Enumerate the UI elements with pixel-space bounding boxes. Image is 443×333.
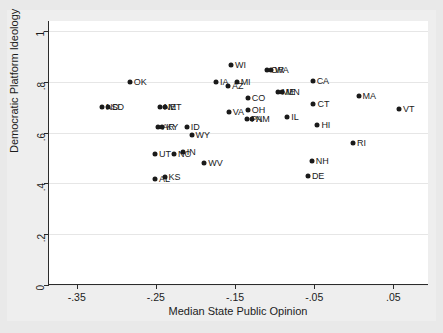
- scatter-point: [315, 123, 320, 128]
- point-label: KS: [169, 172, 181, 182]
- point-label: CT: [317, 99, 329, 109]
- point-label: VT: [403, 104, 415, 114]
- scatter-point: [279, 90, 284, 95]
- x-tick-label: .05: [386, 291, 401, 303]
- y-tick-label: .2: [36, 234, 47, 242]
- point-label: IN: [187, 147, 196, 157]
- plot-area: 0.2.4.6.81 -.35-.25-.15-.05.05 OKNDSDNEM…: [48, 21, 428, 285]
- scatter-point: [100, 105, 105, 110]
- y-axis-label: Democratic Platform Ideology: [8, 9, 20, 153]
- point-label: DE: [312, 171, 325, 181]
- point-label: UT: [159, 149, 171, 159]
- gridline: [49, 234, 428, 235]
- scatter-point: [311, 102, 316, 107]
- scatter-point: [351, 141, 356, 146]
- scatter-point: [245, 95, 250, 100]
- x-tick-label: -.05: [305, 291, 323, 303]
- point-label: WV: [208, 158, 223, 168]
- scatter-point: [105, 105, 110, 110]
- gridline: [49, 31, 428, 32]
- x-axis-label: Median State Public Opinion: [48, 305, 428, 317]
- point-label: VA: [233, 107, 244, 117]
- point-label: MN: [286, 87, 300, 97]
- scatter-point: [226, 110, 231, 115]
- scatter-point: [245, 107, 250, 112]
- y-tick-label: 1: [36, 31, 47, 37]
- scatter-point: [396, 107, 401, 112]
- point-label: MA: [363, 91, 377, 101]
- scatter-point: [310, 79, 315, 84]
- scatter-point: [172, 151, 177, 156]
- scatter-point: [162, 175, 167, 180]
- scatter-point: [309, 158, 314, 163]
- scatter-point: [162, 105, 167, 110]
- x-tick: [156, 284, 157, 289]
- scatter-point: [202, 160, 207, 165]
- scatter-point: [153, 151, 158, 156]
- point-label: SD: [112, 102, 125, 112]
- point-label: CA: [317, 76, 330, 86]
- x-tick-label: -.15: [226, 291, 244, 303]
- x-tick: [314, 284, 315, 289]
- scatter-point: [249, 117, 254, 122]
- scatter-point: [356, 93, 361, 98]
- y-tick-label: .8: [36, 82, 47, 90]
- scatter-point: [214, 79, 219, 84]
- point-label: NM: [256, 114, 270, 124]
- point-label: WY: [196, 130, 211, 140]
- scatter-point: [153, 176, 158, 181]
- point-label: NH: [316, 156, 329, 166]
- scatter-point: [180, 149, 185, 154]
- gridline: [49, 285, 428, 286]
- scatter-point: [225, 84, 230, 89]
- chart-figure: Democratic Platform Ideology Median Stat…: [0, 0, 443, 333]
- point-label: HI: [321, 120, 330, 130]
- point-label: CO: [252, 93, 266, 103]
- gridline: [49, 183, 428, 184]
- gridline: [49, 133, 428, 134]
- point-label: WI: [235, 60, 246, 70]
- x-tick: [235, 284, 236, 289]
- point-label: MT: [169, 102, 182, 112]
- x-tick-label: -.25: [147, 291, 165, 303]
- y-tick-label: 0: [36, 285, 47, 291]
- point-label: WA: [275, 65, 289, 75]
- point-label: OK: [134, 77, 147, 87]
- scatter-point: [189, 132, 194, 137]
- scatter-point: [268, 67, 273, 72]
- point-label: IL: [291, 112, 299, 122]
- point-label: RI: [357, 138, 366, 148]
- x-tick: [77, 284, 78, 289]
- point-label: MI: [241, 77, 251, 87]
- scatter-point: [285, 114, 290, 119]
- x-tick: [393, 284, 394, 289]
- scatter-point: [305, 173, 310, 178]
- scatter-point: [160, 125, 165, 130]
- y-tick-label: .6: [36, 133, 47, 141]
- scatter-point: [229, 62, 234, 67]
- scatter-point: [234, 79, 239, 84]
- scatter-point: [127, 79, 132, 84]
- y-tick-label: .4: [36, 183, 47, 191]
- x-tick-label: -.35: [68, 291, 86, 303]
- point-label: KY: [166, 122, 178, 132]
- scatter-point: [184, 125, 189, 130]
